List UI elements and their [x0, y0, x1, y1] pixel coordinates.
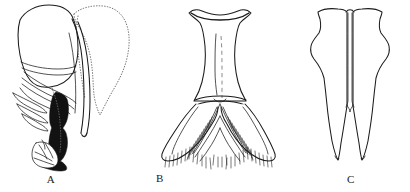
panel-a [0, 0, 150, 172]
panel-c [290, 0, 410, 172]
panel-a-label: A [41, 173, 61, 185]
panel-b-label: B [150, 172, 170, 184]
panel-c-drawing [290, 0, 410, 172]
panel-c-label: C [341, 173, 361, 185]
plate-body-outline [189, 10, 251, 101]
right-lobe-outline [353, 9, 389, 160]
panel-b-drawing [150, 0, 290, 172]
spur-1 [13, 93, 47, 113]
figure-plate: B AC [0, 0, 410, 192]
panel-b: B [150, 0, 290, 172]
central-apex-setae [213, 155, 227, 167]
panel-a-drawing [0, 0, 150, 172]
basal-separation [347, 105, 353, 112]
left-lobe-outline [311, 9, 347, 160]
spur-2 [17, 104, 48, 123]
